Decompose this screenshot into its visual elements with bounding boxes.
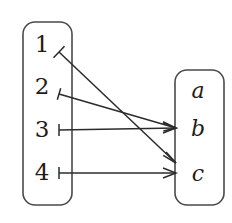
codomain-element-b: b xyxy=(187,118,209,140)
domain-element-2: 2 xyxy=(31,75,53,98)
function-mapping-figure: 1 2 3 4 a b c xyxy=(0,0,232,223)
mapping-arrow-4-to-c xyxy=(59,167,176,179)
codomain-element-a: a xyxy=(187,80,209,102)
mapping-arrow-3-to-b xyxy=(59,123,176,136)
domain-element-4: 4 xyxy=(31,161,53,184)
domain-element-1: 1 xyxy=(31,33,53,56)
domain-element-3: 3 xyxy=(31,118,53,141)
mapping-arrow-2-to-b xyxy=(57,88,176,131)
codomain-element-c: c xyxy=(187,163,209,185)
